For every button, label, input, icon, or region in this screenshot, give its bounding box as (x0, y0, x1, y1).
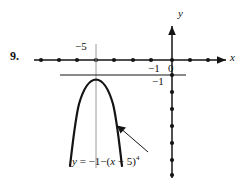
equation-exponent: 4 (136, 154, 140, 162)
problem-number: 9. (10, 50, 19, 62)
equation-rhs-lead: −1−( (89, 155, 111, 167)
math-figure: 9. x y −5 −1 0 −1 y = −1−(x + 5)4 (0, 0, 250, 188)
x-axis-arrowhead (217, 56, 226, 64)
y-axis-arrowhead (168, 26, 176, 35)
y-tick-label-neg1: −1 (152, 76, 164, 87)
equation-lhs: y (72, 155, 77, 167)
equation-caption: y = −1−(x + 5)4 (72, 155, 139, 167)
x-tick-label-neg1: −1 (148, 63, 160, 74)
origin-label: 0 (168, 63, 174, 74)
y-axis-label: y (178, 8, 183, 19)
x-axis-label: x (230, 52, 235, 63)
callout-arrow-line (119, 127, 148, 152)
equation-plus: + (118, 155, 124, 167)
equation-variable: x (110, 155, 115, 167)
equation-equals: = (80, 155, 86, 167)
x-tick-label-neg5: −5 (75, 41, 87, 52)
